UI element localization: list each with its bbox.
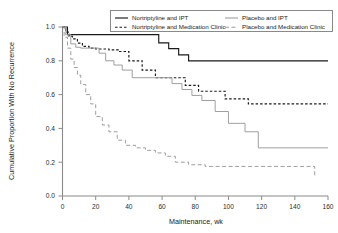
y-tick-label: 0.6 xyxy=(46,91,55,98)
legend-label: Placebo and Medication Clinic xyxy=(242,23,325,30)
y-tick-label: 1.0 xyxy=(46,23,55,30)
y-axis-title: Cumulative Proportion With No Recurrence xyxy=(7,42,16,180)
legend-label: Placebo and IPT xyxy=(242,14,288,21)
x-tick-label: 40 xyxy=(125,203,133,210)
kaplan-meier-figure: 0.00.20.40.60.81.0 020406080100120140160… xyxy=(0,0,338,233)
plot-axes xyxy=(63,27,329,196)
x-tick-label: 80 xyxy=(192,203,200,210)
legend-label: Nortriptyline and IPT xyxy=(132,14,189,21)
y-tick-label: 0.8 xyxy=(46,57,55,64)
survival-curve-0 xyxy=(63,27,329,61)
y-tick-label: 0.0 xyxy=(46,192,55,199)
chart-legend: Nortriptyline and IPTNortriptyline and M… xyxy=(111,11,333,32)
x-tick-label: 60 xyxy=(158,203,166,210)
x-tick-label: 0 xyxy=(61,203,65,210)
survival-curves xyxy=(63,27,329,176)
y-tick-label: 0.2 xyxy=(46,159,55,166)
x-tick-label: 100 xyxy=(223,203,234,210)
x-axis-title: Maintenance, wk xyxy=(169,217,223,226)
survival-curve-1 xyxy=(63,27,329,104)
y-axis-ticks: 0.00.20.40.60.81.0 xyxy=(46,23,63,199)
x-tick-label: 120 xyxy=(256,203,267,210)
x-axis-ticks: 020406080100120140160 xyxy=(61,196,334,210)
legend-label: Nortriptyline and Medication Clinic xyxy=(132,23,226,30)
y-tick-label: 0.4 xyxy=(46,125,55,132)
x-tick-label: 20 xyxy=(92,203,100,210)
survival-curve-chart: 0.00.20.40.60.81.0 020406080100120140160… xyxy=(0,0,338,233)
survival-curve-2 xyxy=(63,27,329,148)
x-tick-label: 140 xyxy=(289,203,300,210)
x-tick-label: 160 xyxy=(322,203,333,210)
